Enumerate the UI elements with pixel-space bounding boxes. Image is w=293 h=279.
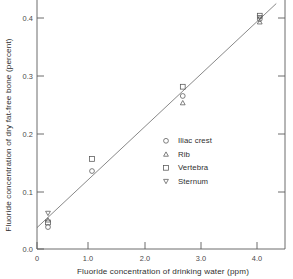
- x-tick-labels: 0 1.0 2.0 3.0 4.0: [35, 254, 262, 263]
- series-iliac-crest: [46, 17, 263, 230]
- legend-item-label: Iliac crest: [178, 136, 213, 145]
- legend-item-label: Vertebra: [178, 163, 209, 172]
- data-point-marker: [90, 169, 95, 174]
- regression-line: [37, 4, 276, 228]
- data-point-marker: [180, 94, 185, 99]
- circle-marker-icon: [164, 138, 169, 143]
- series-vertebra: [46, 13, 263, 225]
- legend-item-iliac-crest: Iliac crest: [164, 136, 213, 145]
- data-points-layer: [46, 13, 263, 229]
- legend-item-sternum: Sternum: [164, 177, 209, 186]
- legend-item-vertebra: Vertebra: [164, 163, 209, 172]
- x-tick-label: 2.0: [140, 254, 151, 263]
- y-axis-ticks-right: [278, 18, 285, 192]
- x-tick-label: 1.0: [83, 254, 94, 263]
- triangle-up-marker-icon: [164, 152, 169, 156]
- series-rib: [46, 20, 263, 222]
- data-point-marker: [180, 100, 185, 104]
- x-tick-label: 4.0: [252, 254, 263, 263]
- y-axis-title: Fluoride concentration of dry fat-free b…: [4, 38, 13, 231]
- scatter-plot-figure: 0.4 0.3 0.2 0.1 0.0 0 1.0 2.0 3.0 4.0 Fl…: [0, 0, 293, 279]
- x-axis-ticks: [37, 242, 257, 249]
- legend-item-rib: Rib: [164, 150, 191, 159]
- series-sternum: [46, 16, 263, 216]
- data-point-marker: [46, 225, 51, 230]
- x-tick-label: 0: [35, 254, 39, 263]
- data-point-marker: [180, 84, 185, 89]
- y-tick-label: 0.4: [22, 14, 33, 23]
- legend: Iliac crestRibVertebraSternum: [164, 136, 213, 186]
- y-tick-labels: 0.4 0.3 0.2 0.1 0.0: [22, 14, 33, 254]
- square-marker-icon: [164, 165, 169, 170]
- y-tick-label: 0.0: [22, 245, 33, 254]
- x-tick-label: 3.0: [196, 254, 207, 263]
- x-axis-title: Fluoride concentration of drinking water…: [77, 267, 249, 276]
- data-point-marker: [90, 157, 95, 162]
- data-point-marker: [46, 211, 51, 215]
- y-tick-label: 0.1: [22, 188, 33, 197]
- y-axis-ticks: [37, 18, 44, 249]
- plot-canvas: 0.4 0.3 0.2 0.1 0.0 0 1.0 2.0 3.0 4.0 Fl…: [0, 0, 293, 279]
- y-tick-label: 0.2: [22, 130, 33, 139]
- y-tick-label: 0.3: [22, 72, 33, 81]
- triangle-down-marker-icon: [164, 179, 169, 183]
- legend-item-label: Rib: [178, 150, 191, 159]
- legend-item-label: Sternum: [178, 177, 208, 186]
